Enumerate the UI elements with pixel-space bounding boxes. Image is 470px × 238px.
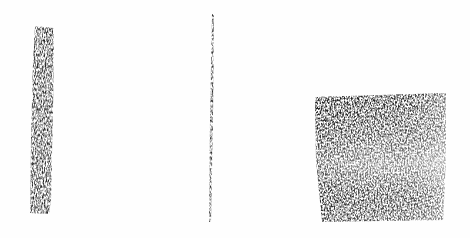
drawing <box>0 0 470 238</box>
thin-vertical-line <box>209 14 214 222</box>
thick-vertical-stroke <box>30 26 54 214</box>
shaded-square <box>315 93 446 222</box>
paper-background <box>0 0 470 238</box>
